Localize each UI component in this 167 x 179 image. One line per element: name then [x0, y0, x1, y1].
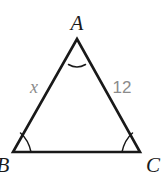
- geometry-figure: A B C x 12: [0, 0, 167, 179]
- side-label-ac: 12: [113, 78, 132, 97]
- angle-mark-a-arc: [69, 65, 86, 68]
- vertex-label-a: A: [69, 11, 84, 35]
- triangle-diagram-svg: A B C x 12: [0, 0, 167, 179]
- vertex-label-c: C: [146, 153, 161, 177]
- side-label-ab: x: [29, 77, 38, 97]
- vertex-label-b: B: [0, 153, 10, 177]
